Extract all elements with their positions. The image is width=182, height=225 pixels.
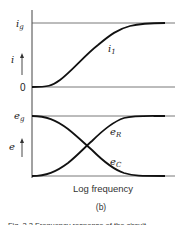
panel-label: (b) bbox=[96, 202, 107, 212]
i-axis-label: i bbox=[11, 54, 14, 65]
eg-label: eg bbox=[14, 110, 25, 123]
eR-curve bbox=[32, 116, 165, 176]
x-axis-label: Log frequency bbox=[73, 183, 133, 194]
eR-label: eR bbox=[110, 126, 122, 139]
zero-label: 0 bbox=[20, 82, 26, 93]
figure-caption: Fig. 2.2 Frequency response of the circu… bbox=[8, 221, 147, 225]
i-arrowhead-icon bbox=[20, 53, 24, 58]
e-arrowhead-icon bbox=[20, 138, 24, 143]
e-axis-label: e bbox=[9, 141, 15, 152]
i1-label: i1 bbox=[108, 43, 116, 56]
eC-curve bbox=[32, 116, 165, 176]
i1-curve bbox=[32, 23, 165, 87]
ig-label: ig bbox=[16, 18, 24, 31]
frequency-response-diagram: ig i 0 i1 eg e eR eC Log frequency (b) F… bbox=[0, 0, 182, 225]
